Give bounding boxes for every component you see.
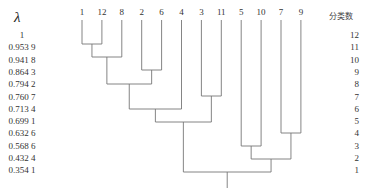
dendrogram: λ 分类数 10.953 90.941 80.864 30.794 20.760… — [0, 0, 366, 188]
leaf-label: 11 — [217, 7, 226, 17]
leaf-label: 5 — [239, 7, 244, 17]
cluster-count-label: 12 — [350, 30, 359, 40]
cluster-count-axis-title: 分类数 — [329, 11, 353, 21]
cluster-count-label: 5 — [355, 116, 360, 126]
leaf-label: 8 — [120, 7, 125, 17]
lambda-level-label: 0.941 8 — [9, 55, 37, 65]
lambda-level-label: 0.699 1 — [9, 116, 36, 126]
leaf-label: 9 — [299, 7, 304, 17]
lambda-level-label: 0.713 4 — [9, 104, 37, 114]
leaf-label: 3 — [199, 7, 204, 17]
leaf-label: 6 — [159, 7, 164, 17]
leaf-label: 4 — [179, 7, 184, 17]
leaf-label: 10 — [257, 7, 267, 17]
leaf-label: 12 — [97, 7, 106, 17]
lambda-axis-title: λ — [13, 9, 21, 25]
leaf-label: 7 — [279, 7, 284, 17]
lambda-level-label: 0.432 4 — [9, 153, 37, 163]
cluster-count-label: 4 — [355, 128, 360, 138]
lambda-level-label: 0.632 6 — [9, 128, 37, 138]
lambda-level-label: 0.864 3 — [9, 67, 37, 77]
cluster-count-label: 6 — [355, 104, 360, 114]
leaf-label: 2 — [139, 7, 144, 17]
lambda-level-label: 0.953 9 — [9, 42, 37, 52]
lambda-level-label: 0.794 2 — [9, 79, 36, 89]
lambda-level-label: 0.760 7 — [9, 92, 37, 102]
cluster-count-label: 7 — [355, 92, 360, 102]
cluster-count-label: 3 — [355, 141, 360, 151]
cluster-count-label: 9 — [355, 67, 360, 77]
cluster-count-label: 10 — [350, 55, 360, 65]
lambda-level-label: 1 — [20, 30, 25, 40]
leaf-label: 1 — [80, 7, 85, 17]
cluster-count-label: 2 — [355, 153, 360, 163]
lambda-level-label: 0.568 6 — [9, 141, 37, 151]
cluster-count-label: 8 — [355, 79, 360, 89]
cluster-count-label: 11 — [350, 42, 359, 52]
cluster-count-label: 1 — [355, 165, 360, 175]
lambda-level-label: 0.354 1 — [9, 165, 36, 175]
